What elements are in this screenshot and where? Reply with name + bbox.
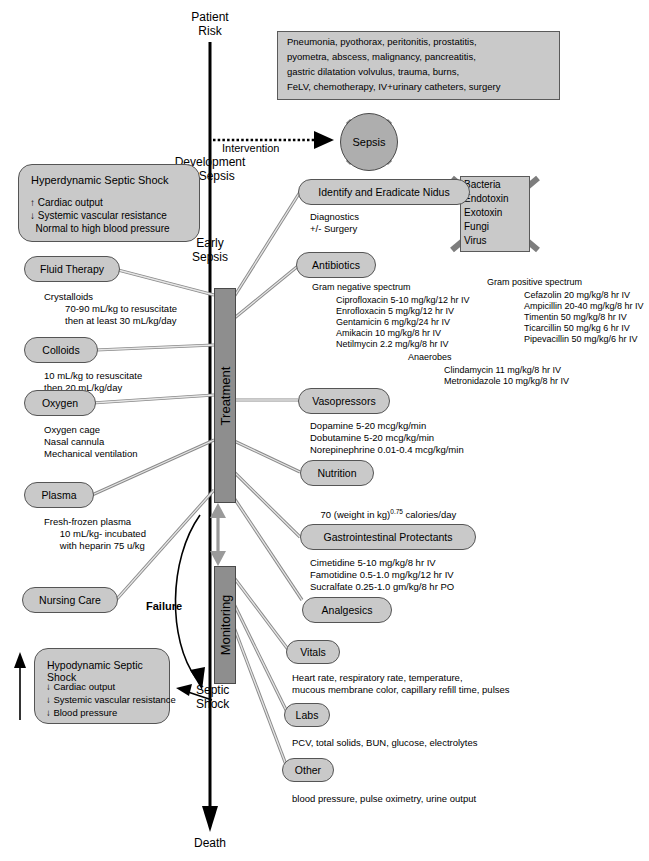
node-plasma[interactable]: Plasma (24, 482, 94, 508)
hyperdynamic-title: Hyperdynamic Septic Shock (31, 174, 169, 186)
node-nutrition-label: Nutrition (317, 467, 356, 479)
nutrition-formula-suffix: calories/day (403, 509, 456, 520)
pathogen-item-endotoxin: Endotoxin (464, 193, 508, 205)
node-vitals[interactable]: Vitals (286, 640, 340, 664)
failure-label: Failure (146, 600, 182, 613)
node-vasopressors[interactable]: Vasopressors (298, 388, 390, 414)
fluid-therapy-detail-3: then at least 30 mL/kg/day (44, 315, 177, 327)
hyperdynamic-septic-shock-panel: Hyperdynamic Septic Shock ↑ Cardiac outp… (18, 164, 200, 242)
oxygen-detail-1: Oxygen cage (44, 424, 100, 436)
sepsis-node-label: Sepsis (352, 136, 385, 148)
fluid-therapy-detail-1: Crystalloids (44, 291, 93, 303)
nidus-detail-2: +/- Surgery (310, 223, 357, 235)
hyperdynamic-row-1: ↑ Cardiac output (30, 196, 103, 209)
monitoring-bar[interactable]: Monitoring (214, 566, 236, 684)
vitals-detail-2: mucous membrane color, capillary refill … (292, 684, 510, 696)
node-fluid-therapy[interactable]: Fluid Therapy (24, 256, 120, 282)
anaerobes-drug-1: Clindamycin 11 mg/kg/8 hr IV (444, 365, 561, 377)
hyperdynamic-row-3: Normal to high blood pressure (30, 222, 170, 235)
timeline-stage-patient-risk: Patient Risk (170, 10, 250, 38)
node-vasopressors-label: Vasopressors (312, 395, 375, 407)
risk-factors-line-1: Pneumonia, pyothorax, peritonitis, prost… (287, 36, 477, 48)
hypodynamic-row-2: ↓ Systemic vascular resistance (46, 693, 176, 706)
gram-negative-heading: Gram negative spectrum (312, 282, 411, 294)
plasma-detail-1: Fresh-frozen plasma (44, 516, 131, 528)
node-antibiotics[interactable]: Antibiotics (296, 252, 376, 278)
intervention-arrowhead (314, 131, 334, 149)
treatment-bar[interactable]: Treatment (214, 288, 236, 503)
monitoring-bar-label: Monitoring (218, 595, 233, 656)
fluid-therapy-detail-2: 70-90 mL/kg to resuscitate (44, 303, 177, 315)
node-vitals-label: Vitals (300, 646, 326, 658)
colloids-detail-1: 10 mL/kg to resuscitate (44, 370, 142, 382)
gi-protectants-detail-3: Sucralfate 0.25-1.0 gm/kg/8 hr PO (310, 581, 454, 593)
node-gastrointestinal-protectants-label: Gastrointestinal Protectants (324, 531, 453, 543)
node-colloids-label: Colloids (42, 344, 79, 356)
right-connectors-monitoring (232, 575, 290, 770)
gram-positive-drug-4: Ticarcillin 50 mg/kg 6 hr IV (524, 323, 630, 335)
anaerobes-heading: Anaerobes (408, 352, 452, 364)
risk-factors-line-3: gastric dilatation volvulus, trauma, bur… (287, 66, 459, 78)
vasopressors-detail-3: Norepinephrine 0.01-0.4 mcg/kg/min (310, 444, 464, 456)
gram-negative-drug-1: Ciprofloxacin 5-10 mg/kg/12 hr IV (336, 295, 470, 307)
hypodynamic-septic-shock-panel: Hypodynamic Septic Shock ↓ Cardiac outpu… (34, 648, 170, 724)
gram-negative-drug-3: Gentamicin 6 mg/kg/24 hr IV (336, 317, 450, 329)
node-identify-eradicate-nidus[interactable]: Identify and Eradicate Nidus (298, 179, 470, 205)
intervention-label: Intervention (222, 142, 279, 155)
labs-detail-1: PCV, total solids, BUN, glucose, electro… (292, 737, 478, 749)
node-nutrition[interactable]: Nutrition (300, 460, 374, 486)
node-plasma-label: Plasma (41, 489, 76, 501)
risk-factors-line-4: FeLV, chemotherapy, IV+urinary catheters… (287, 81, 500, 93)
node-labs-label: Labs (296, 709, 319, 721)
node-oxygen-label: Oxygen (42, 397, 78, 409)
death-arrowhead (202, 806, 218, 832)
gram-negative-drug-5: Netilmycin 2.2 mg/kg/8 hr IV (336, 339, 449, 351)
gi-protectants-detail-2: Famotidine 0.5-1.0 mg/kg/12 hr IV (310, 569, 454, 581)
gram-positive-drug-2: Ampicillin 20-40 mg/kg/8 hr IV (524, 301, 644, 313)
node-other[interactable]: Other (282, 758, 334, 782)
node-gastrointestinal-protectants[interactable]: Gastrointestinal Protectants (300, 524, 476, 550)
node-fluid-therapy-label: Fluid Therapy (40, 263, 104, 275)
node-colloids[interactable]: Colloids (24, 337, 98, 363)
link-arrow-up (210, 503, 226, 518)
oxygen-detail-2: Nasal cannula (44, 436, 104, 448)
node-oxygen[interactable]: Oxygen (24, 390, 96, 416)
gi-protectants-detail-1: Cimetidine 5-10 mg/kg/8 hr IV (310, 557, 436, 569)
sepsis-flowchart-diagram: Patient Risk Development of Sepsis Early… (0, 0, 649, 861)
gram-positive-drug-5: Pipevacillin 50 mg/kg/6 hr IV (524, 334, 638, 346)
node-other-label: Other (295, 764, 321, 776)
gram-positive-heading: Gram positive spectrum (487, 277, 582, 289)
nutrition-formula-exponent: 0.75 (390, 508, 403, 515)
hypodynamic-row-3: ↓ Blood pressure (46, 706, 117, 719)
node-nursing-care-label: Nursing Care (39, 594, 101, 606)
risk-factors-line-2: pyometra, abscess, malignancy, pancreati… (287, 51, 476, 63)
gram-positive-drug-1: Cefazolin 20 mg/kg/8 hr IV (524, 290, 630, 302)
treatment-bar-label: Treatment (218, 366, 233, 425)
failure-curve (175, 515, 200, 678)
plasma-detail-2: 10 mL/kg- incubated (44, 528, 146, 540)
nutrition-formula-prefix: 70 (weight in kg) (321, 509, 391, 520)
other-detail-1: blood pressure, pulse oximetry, urine ou… (292, 793, 476, 805)
gram-negative-drug-4: Amikacin 10 mg/kg/8 hr IV (336, 328, 441, 340)
vitals-detail-1: Heart rate, respiratory rate, temperatur… (292, 672, 463, 684)
node-nursing-care[interactable]: Nursing Care (22, 587, 118, 613)
plasma-detail-3: with heparin 75 u/kg (44, 540, 145, 552)
hypodynamic-row-1: ↓ Cardiac output (46, 680, 115, 693)
pathogen-item-virus: Virus (464, 235, 487, 247)
vasopressors-detail-2: Dobutamine 5-20 mcg/kg/min (310, 432, 434, 444)
gram-negative-drug-2: Enrofloxacin 5 mg/kg/12 hr IV (336, 306, 454, 318)
anaerobes-drug-2: Metronidazole 10 mg/kg/8 hr IV (444, 376, 569, 388)
node-antibiotics-label: Antibiotics (312, 259, 360, 271)
timeline-stage-septic-shock: Septic Shock (196, 683, 280, 711)
nidus-detail-1: Diagnostics (310, 211, 359, 223)
node-analgesics[interactable]: Analgesics (302, 597, 392, 623)
pathogen-item-fungi: Fungi (464, 221, 489, 233)
pathogen-item-exotoxin: Exotoxin (464, 207, 502, 219)
sepsis-node[interactable]: Sepsis (340, 113, 398, 171)
node-labs[interactable]: Labs (284, 703, 330, 727)
progression-up-arrowhead (14, 652, 26, 668)
hypodynamic-pointer-head (176, 684, 192, 696)
node-identify-eradicate-nidus-label: Identify and Eradicate Nidus (318, 186, 449, 198)
node-analgesics-label: Analgesics (322, 604, 373, 616)
hyperdynamic-row-2: ↓ Systemic vascular resistance (30, 209, 167, 222)
